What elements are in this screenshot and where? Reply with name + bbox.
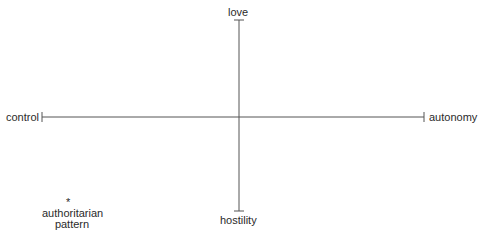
axis-label-autonomy: autonomy: [429, 111, 477, 123]
axis-label-love: love: [228, 6, 248, 18]
axis-label-hostility: hostility: [220, 214, 257, 226]
point-label-authoritarian-line2: pattern: [42, 218, 102, 230]
axis-label-control: control: [6, 111, 39, 123]
axes-canvas: [0, 0, 484, 236]
